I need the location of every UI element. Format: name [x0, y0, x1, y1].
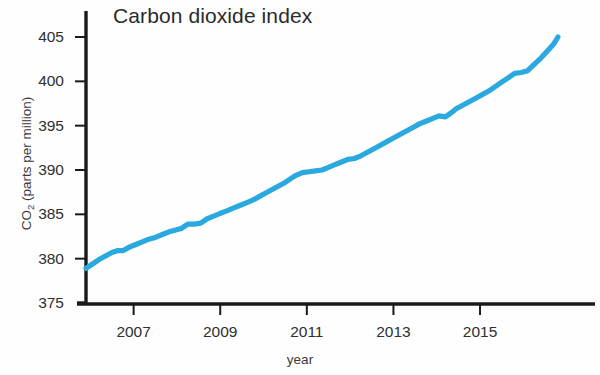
- axis-lines: [77, 11, 595, 304]
- x-tick-label: 2013: [358, 324, 428, 340]
- y-axis-label-units: (parts per million): [19, 97, 34, 205]
- y-tick-label: 395: [18, 118, 64, 134]
- x-tick-label: 2009: [185, 324, 255, 340]
- y-tick-label: 405: [18, 29, 64, 45]
- x-tick-label: 2011: [272, 324, 342, 340]
- y-tick-label: 400: [18, 73, 64, 89]
- chart-title: Carbon dioxide index: [113, 4, 312, 28]
- y-tick-label: 390: [18, 162, 64, 178]
- cropped-caption-ghost: [8, 368, 11, 375]
- plot-area: [0, 0, 600, 375]
- x-axis-label: year: [0, 352, 600, 367]
- chart-figure: Carbon dioxide index CO2 (parts per mill…: [0, 0, 600, 375]
- x-tick-label: 2015: [445, 324, 515, 340]
- y-tick-label: 375: [18, 295, 64, 311]
- data-series-line: [86, 37, 558, 268]
- y-tick-label: 380: [18, 251, 64, 267]
- x-tick-label: 2007: [99, 324, 169, 340]
- y-tick-label: 385: [18, 206, 64, 222]
